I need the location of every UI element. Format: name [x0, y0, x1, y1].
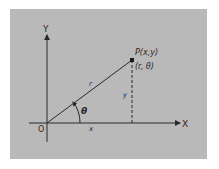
x-distance-label: x: [88, 125, 94, 133]
y-distance-label: y: [122, 91, 128, 99]
x-axis-label: X: [182, 119, 188, 129]
point-cartesian-label: P(x,y): [135, 48, 158, 57]
angle-label: θ: [81, 106, 87, 116]
origin-label: O: [38, 125, 44, 134]
polar-coordinate-diagram: Y X O P(x,y) (r, θ) r x y θ: [0, 0, 219, 169]
y-axis-label: Y: [42, 24, 49, 34]
point-p-marker: [130, 58, 134, 62]
point-polar-label: (r, θ): [135, 62, 154, 71]
radius-label: r: [89, 80, 93, 88]
radius-line: [47, 60, 132, 123]
angle-arc: [73, 102, 80, 123]
